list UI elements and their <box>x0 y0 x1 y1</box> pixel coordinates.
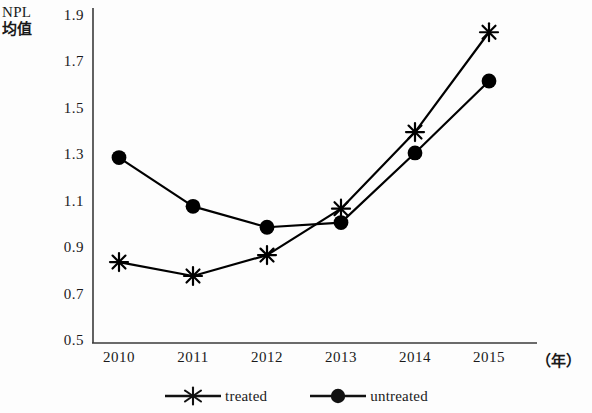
series-line <box>119 81 489 227</box>
data-point-marker <box>184 267 202 285</box>
data-point-marker <box>110 253 128 271</box>
data-point-marker <box>482 74 497 89</box>
data-point-marker <box>186 199 201 214</box>
series-treated <box>110 23 498 285</box>
data-point-marker <box>480 23 498 41</box>
legend-entry-untreated: untreated <box>309 386 428 406</box>
circle-marker-icon <box>309 386 367 406</box>
series-line <box>119 32 489 276</box>
data-point-marker <box>258 246 276 264</box>
series-untreated <box>112 74 497 235</box>
chart-legend: treated untreated <box>0 382 592 410</box>
data-point-marker <box>408 146 423 161</box>
data-point-marker <box>260 220 275 235</box>
data-series-group <box>110 23 498 285</box>
chart-figure: NPL均值 0.50.70.91.11.31.51.71.9 201020112… <box>0 0 592 413</box>
plot-area <box>0 0 592 413</box>
asterisk-marker-icon <box>164 386 222 406</box>
legend-entry-treated: treated <box>164 386 267 406</box>
data-point-marker <box>332 200 350 218</box>
data-point-marker <box>112 150 127 165</box>
data-point-marker <box>334 215 349 230</box>
legend-label-treated: treated <box>225 388 267 405</box>
legend-label-untreated: untreated <box>370 388 428 405</box>
data-point-marker <box>406 123 424 141</box>
